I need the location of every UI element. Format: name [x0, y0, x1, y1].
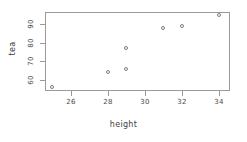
scatter-plot: 2628303234 60708090 height tea — [0, 0, 247, 142]
x-axis-title: height — [0, 120, 247, 129]
x-axis-tick — [145, 91, 146, 96]
y-axis-tick — [40, 24, 45, 25]
y-axis-tick-label: 60 — [27, 73, 35, 87]
x-axis-tick — [71, 91, 72, 96]
x-axis-tick — [108, 91, 109, 96]
y-axis-tick-label: 90 — [27, 17, 35, 31]
x-axis-tick-label: 34 — [214, 98, 224, 106]
data-point — [217, 13, 221, 17]
x-axis-tick-label: 30 — [140, 98, 150, 106]
plot-panel — [45, 12, 230, 91]
x-axis-tick-label: 32 — [177, 98, 187, 106]
y-axis-tick — [40, 80, 45, 81]
x-axis-tick-label: 26 — [66, 98, 76, 106]
x-axis-tick-label: 28 — [103, 98, 113, 106]
y-axis-tick-label: 80 — [27, 36, 35, 50]
data-point — [180, 24, 184, 28]
y-axis-tick-label: 70 — [27, 54, 35, 68]
x-axis-tick — [182, 91, 183, 96]
y-axis-title: tea — [8, 41, 17, 57]
y-axis-tick — [40, 43, 45, 44]
x-axis-tick — [219, 91, 220, 96]
y-axis-tick — [40, 61, 45, 62]
